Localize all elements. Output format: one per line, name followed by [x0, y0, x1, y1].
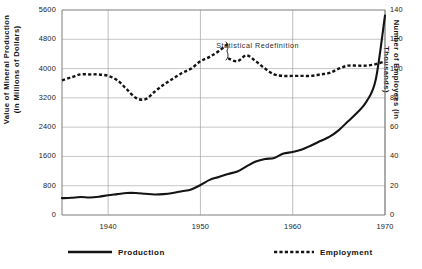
legend-label-employment: Employment [320, 248, 373, 257]
chart-container: Value of Mineral Production (in Millions… [0, 0, 422, 269]
legend-swatches [0, 0, 422, 269]
legend-label-production: Production [118, 248, 165, 257]
